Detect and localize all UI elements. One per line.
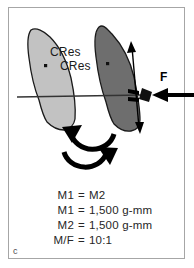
- equation-block: M1 = M2 M1 = 1,500 g-mm M2 = 1,500 g-mm …: [47, 189, 167, 249]
- equation-lhs: M1: [47, 189, 74, 201]
- bracket-attachment: [139, 88, 152, 102]
- equation-row: M2 = 1,500 g-mm: [47, 219, 167, 234]
- equation-rhs: 10:1: [89, 234, 112, 246]
- force-arrowhead: [152, 88, 168, 102]
- equation-lhs: M1: [47, 204, 74, 216]
- cres-dot-light: [44, 64, 47, 67]
- curved-arrow-counterclockwise-head: [62, 125, 82, 143]
- cres-dot-dark: [106, 62, 109, 65]
- equation-rhs: M2: [89, 189, 105, 201]
- equation-row: M1 = 1,500 g-mm: [47, 204, 167, 219]
- panel-letter: c: [13, 246, 18, 256]
- couple-arrowhead-up: [127, 41, 136, 53]
- equation-operator: =: [74, 219, 89, 231]
- curved-arrow-clockwise-arc: [64, 152, 106, 167]
- tooth-outline-dark: [95, 26, 140, 131]
- equation-rhs: 1,500 g-mm: [89, 219, 152, 231]
- equation-lhs: M2: [47, 219, 74, 231]
- equation-row: M1 = M2: [47, 189, 167, 204]
- curved-arrow-counterclockwise-arc: [71, 133, 114, 149]
- cres-label-initial: CRes: [50, 45, 81, 59]
- equation-operator: =: [74, 204, 89, 216]
- equation-rhs: 1,500 g-mm: [89, 204, 152, 216]
- equation-operator: =: [74, 189, 89, 201]
- equation-operator: =: [74, 234, 89, 246]
- equation-row: M/F = 10:1: [47, 234, 167, 249]
- equation-lhs: M/F: [47, 234, 74, 246]
- cres-label-displaced: CRes: [60, 59, 91, 73]
- force-label: F: [160, 70, 167, 84]
- figure-panel-c: CRes CRes F M1 = M2 M1 = 1,500 g-mm M2 =…: [0, 0, 194, 268]
